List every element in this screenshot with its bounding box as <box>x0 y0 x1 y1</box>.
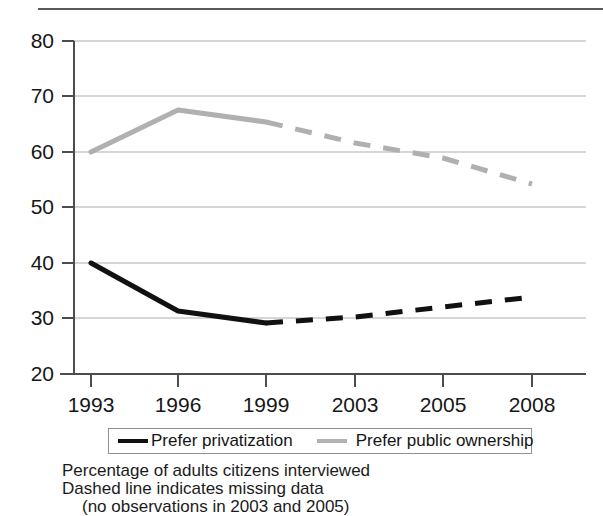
x-tick-label-2003: 2003 <box>315 393 395 417</box>
x-tick-label-2008: 2008 <box>492 393 572 417</box>
legend-entry-prefer-privatization: Prefer privatization <box>118 431 293 451</box>
caption-line-1: Percentage of adults citizens interviewe… <box>62 461 370 481</box>
caption-line-2: Dashed line indicates missing data <box>62 479 324 499</box>
legend-label-prefer-privatization: Prefer privatization <box>151 431 293 451</box>
series-line-prefer-privatization-solid <box>91 263 266 323</box>
x-tick-label-1999: 1999 <box>226 393 306 417</box>
legend-label-prefer-public-ownership: Prefer public ownership <box>356 431 534 451</box>
series-line-prefer-public-ownership-dashed <box>266 122 532 184</box>
x-tick-label-1993: 1993 <box>51 393 131 417</box>
x-tick-label-1996: 1996 <box>138 393 218 417</box>
chart-legend: Prefer privatization Prefer public owner… <box>108 428 532 454</box>
y-tick-label-80: 80 <box>8 29 54 53</box>
y-tick-label-40: 40 <box>8 251 54 275</box>
y-tick-label-50: 50 <box>8 195 54 219</box>
chart-figure: 80 70 60 50 40 30 20 1993 1996 1999 2003… <box>0 0 603 516</box>
x-tick-label-2005: 2005 <box>403 393 483 417</box>
y-tick-label-30: 30 <box>8 306 54 330</box>
series-line-prefer-privatization-dashed <box>266 297 532 323</box>
series-line-prefer-public-ownership-solid <box>91 110 266 152</box>
black-solid-line-swatch-icon <box>118 439 148 443</box>
gray-solid-line-swatch-icon <box>317 439 347 443</box>
y-tick-label-20: 20 <box>8 362 54 386</box>
caption-line-3: (no observations in 2003 and 2005) <box>82 497 349 516</box>
x-tick-marks <box>91 374 532 387</box>
y-tick-label-70: 70 <box>8 84 54 108</box>
y-tick-marks <box>62 41 74 374</box>
y-tick-label-60: 60 <box>8 140 54 164</box>
legend-entry-prefer-public-ownership: Prefer public ownership <box>317 431 534 451</box>
